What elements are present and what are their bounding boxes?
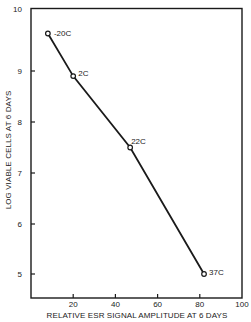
data-point-marker <box>46 31 51 36</box>
x-tick-label: 80 <box>195 300 204 309</box>
y-axis-ticks: 5678910 <box>13 5 35 280</box>
data-point-label: 22C <box>131 137 146 146</box>
x-tick-label: 40 <box>111 300 120 309</box>
x-tick-label: 100 <box>235 300 249 309</box>
data-point-marker <box>202 272 207 277</box>
data-point-label: -20C <box>54 29 72 38</box>
y-axis-label: LOG VIABLE CELLS AT 6 DAYS <box>4 91 13 210</box>
chart: 5678910 20406080100 LOG VIABLE CELLS AT … <box>0 0 251 322</box>
x-axis-ticks: 20406080100 <box>69 294 249 309</box>
x-tick-label: 60 <box>153 300 162 309</box>
data-point-marker <box>128 145 133 150</box>
y-tick-label: 5 <box>18 270 23 279</box>
y-tick-label: 10 <box>13 5 22 14</box>
plot-frame <box>31 9 242 299</box>
data-line <box>48 34 204 275</box>
data-point-label: 2C <box>78 69 88 78</box>
x-tick-label: 20 <box>69 300 78 309</box>
y-tick-label: 6 <box>18 220 23 229</box>
x-axis-label: RELATIVE ESR SIGNAL AMPLITUDE AT 6 DAYS <box>47 311 228 320</box>
data-point-label: 37C <box>209 268 224 277</box>
data-point-marker <box>71 74 76 79</box>
y-tick-label: 9 <box>18 67 23 76</box>
y-tick-label: 8 <box>18 118 23 127</box>
data-points: -20C2C22C37C <box>46 29 224 278</box>
y-tick-label: 7 <box>18 169 23 178</box>
